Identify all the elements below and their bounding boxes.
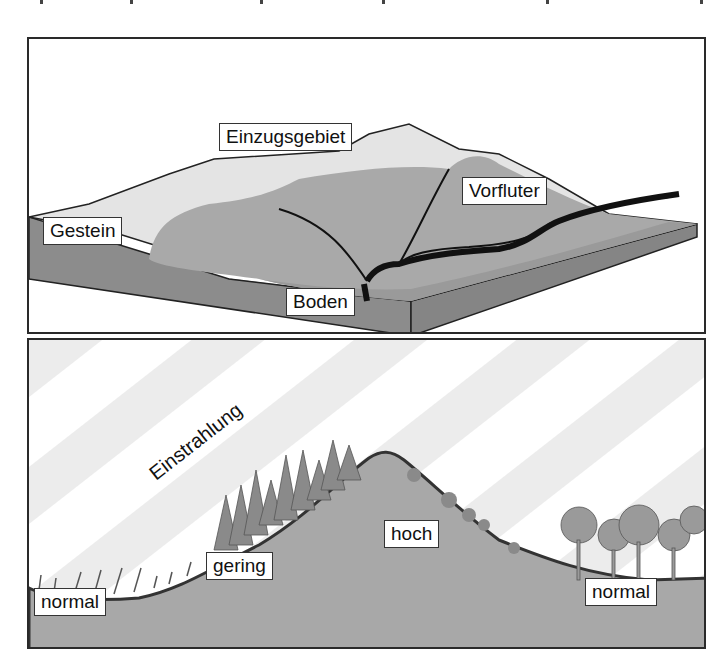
clipped-text-line	[0, 0, 728, 6]
catchment-diagram-panel: Einzugsgebiet Vorfluter Gestein Boden	[27, 37, 706, 334]
einzugsgebiet-label: Einzugsgebiet	[219, 123, 352, 151]
gering-label: gering	[206, 552, 273, 580]
vorfluter-label: Vorfluter	[462, 177, 547, 205]
normal-left-label: normal	[34, 588, 106, 616]
boden-label: Boden	[286, 288, 355, 316]
gestein-label: Gestein	[43, 217, 122, 245]
radiation-slope-panel: Einstrahlung normal gering hoch normal	[27, 338, 706, 649]
normal-right-label: normal	[585, 578, 657, 606]
catchment-landscape-illustration	[29, 39, 706, 334]
hoch-label: hoch	[384, 520, 439, 548]
